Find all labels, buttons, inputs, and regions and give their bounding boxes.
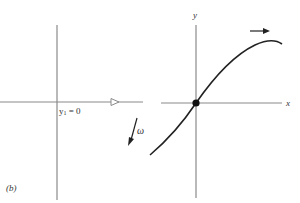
origin-dot bbox=[192, 99, 199, 106]
figure: y1 = 0 ω (b) y x bbox=[0, 0, 300, 203]
hollow-arrowhead-icon bbox=[111, 99, 119, 106]
diagram-canvas bbox=[0, 0, 300, 203]
panel-label: (b) bbox=[6, 184, 17, 193]
right-panel bbox=[150, 25, 282, 198]
response-curve bbox=[150, 41, 282, 155]
line-label-y1-equals-zero: y1 = 0 bbox=[59, 107, 81, 116]
direction-arrow-icon bbox=[250, 28, 270, 34]
y-axis-label: y bbox=[193, 11, 197, 20]
x-axis-label: x bbox=[286, 99, 290, 108]
y1-equals: = 0 bbox=[67, 106, 81, 116]
omega-arrow-icon bbox=[128, 118, 137, 146]
omega-label: ω bbox=[137, 126, 144, 136]
